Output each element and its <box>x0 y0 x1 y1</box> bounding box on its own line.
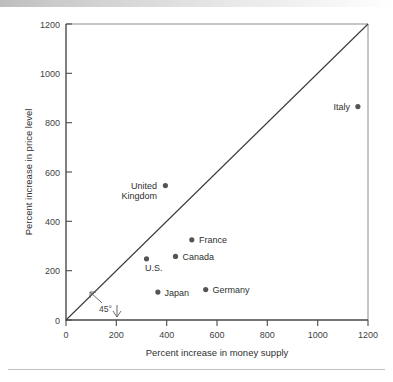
point-label-italy: Italy <box>333 102 350 112</box>
page-bottom-rule <box>8 369 385 370</box>
y-axis-tick-labels: 0 200 400 600 800 1000 1200 <box>40 20 60 326</box>
x-axis-tick-labels: 0 200 400 600 800 1000 1200 <box>63 330 378 340</box>
data-point-italy[interactable]: Italy <box>333 102 360 112</box>
y-tick-label: 600 <box>45 168 60 178</box>
data-point-germany[interactable]: Germany <box>203 285 250 295</box>
point-marker[interactable] <box>144 256 149 261</box>
x-tick-label: 1000 <box>308 330 328 340</box>
point-marker[interactable] <box>163 183 168 188</box>
x-tick-label: 1200 <box>358 330 378 340</box>
x-tick-label: 800 <box>260 330 275 340</box>
y-axis-title: Percent increase in price level <box>23 109 34 236</box>
point-label-us: U.S. <box>145 263 163 273</box>
x-tick-label: 600 <box>209 330 224 340</box>
data-point-us[interactable]: U.S. <box>144 256 163 273</box>
x-tick-label: 0 <box>63 330 68 340</box>
point-label-canada: Canada <box>183 252 215 262</box>
y-axis-ticks <box>66 24 72 320</box>
data-points: Italy United Kingdom France Canada U <box>121 102 360 298</box>
point-label-france: France <box>199 235 227 245</box>
data-point-france[interactable]: France <box>189 235 227 245</box>
x-axis-title: Percent increase in money supply <box>146 347 289 358</box>
x-tick-label: 400 <box>159 330 174 340</box>
point-marker[interactable] <box>155 290 160 295</box>
point-label-japan: Japan <box>165 288 190 298</box>
point-label-united-kingdom-line1: United <box>131 181 157 191</box>
y-tick-label: 400 <box>45 217 60 227</box>
point-marker[interactable] <box>355 104 360 109</box>
y-tick-label: 800 <box>45 118 60 128</box>
data-point-united-kingdom[interactable]: United Kingdom <box>121 181 168 201</box>
x-tick-label: 200 <box>109 330 124 340</box>
data-point-japan[interactable]: Japan <box>155 288 189 298</box>
y-tick-label: 1200 <box>40 20 60 30</box>
forty-five-degree-line <box>66 24 368 320</box>
point-marker[interactable] <box>189 237 194 242</box>
point-marker[interactable] <box>173 254 178 259</box>
y-tick-label: 1000 <box>40 69 60 79</box>
point-label-germany: Germany <box>213 285 251 295</box>
scatter-plot-svg: 0 200 400 600 800 1000 1200 0 200 400 60… <box>0 0 393 382</box>
point-label-united-kingdom-line2: Kingdom <box>121 191 157 201</box>
forty-five-degree-annotation: 45° <box>90 292 121 317</box>
data-point-canada[interactable]: Canada <box>173 252 214 262</box>
x-axis-ticks <box>66 320 368 326</box>
point-marker[interactable] <box>203 287 208 292</box>
forty-five-degree-label: 45° <box>99 304 112 314</box>
y-tick-label: 0 <box>55 316 60 326</box>
y-tick-label: 200 <box>45 266 60 276</box>
chart-figure: 0 200 400 600 800 1000 1200 0 200 400 60… <box>0 0 393 382</box>
